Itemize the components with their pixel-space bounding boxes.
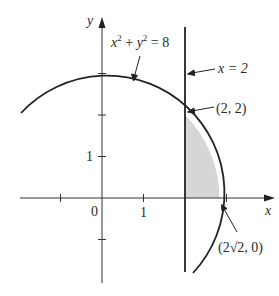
y-axis-label: y: [85, 13, 94, 28]
x-axis-label: x: [264, 203, 272, 218]
y-tick-label-1: 1: [86, 149, 93, 164]
shaded-region: [185, 115, 219, 198]
x-tick-label-1: 1: [140, 205, 147, 220]
y-axis-arrow-icon: [99, 17, 106, 28]
line-label: x = 2: [217, 61, 248, 76]
diagram: y x 0 1 1 x2 + y2 = 8 x = 2 (2, 2) (2√2,…: [0, 0, 279, 296]
origin-label: 0: [91, 204, 98, 219]
x-intercept-label: (2√2, 0): [218, 240, 263, 256]
x-axis-arrow-icon: [264, 195, 275, 202]
circle-equation-label: x2 + y2 = 8: [110, 33, 169, 50]
intersection-label: (2, 2): [216, 101, 247, 117]
